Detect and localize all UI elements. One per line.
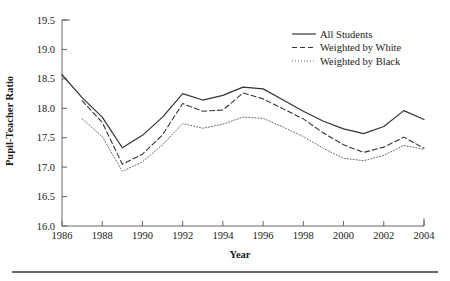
x-axis-title: Year — [230, 249, 251, 260]
x-axis-ticks: 1986198819901992199419961998200020022004 — [52, 221, 436, 241]
x-tick-label: 1988 — [92, 230, 113, 241]
x-tick-label: 1998 — [293, 230, 314, 241]
y-tick-label: 19.5 — [37, 15, 55, 26]
y-tick-label: 18.0 — [37, 103, 55, 114]
y-tick-label: 16.5 — [37, 191, 55, 202]
series-line-weighted-by-black — [82, 117, 424, 171]
x-tick-label: 2004 — [414, 230, 436, 241]
y-tick-label: 17.0 — [37, 162, 55, 173]
series-group — [62, 75, 424, 172]
y-tick-label: 17.5 — [37, 132, 55, 143]
legend-label: Weighted by White — [320, 42, 402, 53]
x-tick-label: 1996 — [253, 230, 274, 241]
series-line-weighted-by-white — [82, 93, 424, 164]
pupil-teacher-ratio-line-chart: Pupil-Teacher Ratio Year 16.016.517.017.… — [0, 0, 450, 281]
legend-label: All Students — [320, 29, 372, 40]
x-tick-label: 2002 — [373, 230, 394, 241]
x-tick-label: 1986 — [52, 230, 73, 241]
x-tick-label: 2000 — [333, 230, 354, 241]
series-line-all-students — [62, 75, 424, 148]
y-axis-title: Pupil-Teacher Ratio — [4, 76, 15, 166]
x-tick-label: 1994 — [212, 230, 234, 241]
y-tick-label: 18.5 — [37, 73, 55, 84]
chart-figure: Pupil-Teacher Ratio Year 16.016.517.017.… — [0, 0, 450, 281]
x-tick-label: 1990 — [132, 230, 153, 241]
legend-label: Weighted by Black — [320, 56, 401, 67]
x-tick-label: 1992 — [172, 230, 193, 241]
y-tick-label: 19.0 — [37, 44, 55, 55]
chart-legend: All StudentsWeighted by WhiteWeighted by… — [292, 29, 402, 67]
